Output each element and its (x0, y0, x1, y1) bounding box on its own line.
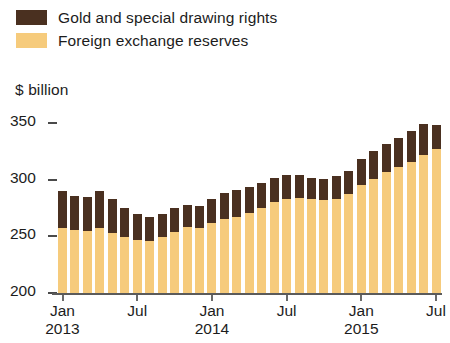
bar-segment-gold (307, 178, 316, 199)
bar-segment-gold (432, 125, 441, 149)
x-tick-year: 2015 (331, 320, 391, 338)
bar (195, 206, 204, 294)
bar-segment-fx (95, 228, 104, 294)
bar-segment-gold (133, 214, 142, 240)
bar (419, 124, 428, 294)
bar-segment-fx (170, 232, 179, 294)
bar-segment-gold (394, 138, 403, 167)
legend-item-fx: Foreign exchange reserves (16, 29, 277, 52)
bar (183, 205, 192, 294)
bar-segment-gold (232, 190, 241, 217)
bar-segment-gold (83, 197, 92, 231)
bar-segment-fx (295, 198, 304, 294)
bar-segment-gold (183, 205, 192, 228)
bar-segment-gold (282, 175, 291, 199)
bar-segment-gold (158, 214, 167, 238)
bar-segment-fx (332, 199, 341, 294)
bar (282, 175, 291, 294)
bar (382, 144, 391, 294)
y-tick-mark (48, 179, 57, 181)
bar-segment-fx (344, 194, 353, 294)
bar (70, 196, 79, 294)
bar-segment-gold (295, 175, 304, 198)
bar-segment-fx (407, 162, 416, 294)
y-axis-unit-label: $ billion (15, 81, 68, 99)
bar (357, 159, 366, 294)
chart-legend: Gold and special drawing rights Foreign … (16, 6, 277, 52)
bar (319, 179, 328, 294)
bar-segment-fx (282, 199, 291, 294)
bar (432, 125, 441, 294)
bar (394, 138, 403, 294)
bar-segment-fx (120, 237, 129, 294)
bar-segment-fx (108, 233, 117, 294)
y-tick-label: 300 (10, 169, 44, 187)
x-tick-mark (211, 295, 213, 301)
bar-segment-gold (369, 151, 378, 178)
bar-segment-gold (357, 159, 366, 185)
bar (257, 183, 266, 294)
bar-segment-fx (382, 172, 391, 294)
bar-segment-fx (357, 185, 366, 294)
plot-area (57, 112, 442, 294)
x-tick-Jan-2014: Jan2014 (182, 302, 242, 338)
bar-segment-gold (145, 217, 154, 241)
legend-swatch-fx (16, 33, 47, 48)
x-tick-month: Jul (257, 302, 317, 320)
y-tick-label: 200 (10, 282, 44, 300)
bar (158, 214, 167, 294)
bar-segment-gold (120, 208, 129, 237)
bar (133, 214, 142, 294)
bar-segment-fx (307, 199, 316, 294)
x-tick-mark (136, 295, 138, 301)
bar-segment-gold (58, 191, 67, 228)
x-tick-month: Jan (331, 302, 391, 320)
x-tick-Jul: Jul (406, 302, 450, 320)
bar (270, 177, 279, 294)
y-tick-300: 300 (10, 169, 57, 187)
x-tick-month: Jan (182, 302, 242, 320)
bar-segment-fx (369, 179, 378, 294)
x-tick-month: Jan (33, 302, 93, 320)
bar-segment-fx (394, 167, 403, 294)
bar-segment-fx (70, 230, 79, 294)
bar-segment-fx (419, 155, 428, 294)
bar-segment-fx (195, 228, 204, 294)
bar-segment-gold (270, 178, 279, 203)
bar-segment-gold (108, 199, 117, 233)
x-tick-year: 2014 (182, 320, 242, 338)
bar-segment-fx (58, 228, 67, 294)
x-tick-mark (286, 295, 288, 301)
axis-baseline (52, 293, 442, 295)
bar (295, 175, 304, 294)
bar (120, 208, 129, 294)
bar-segment-gold (195, 206, 204, 229)
bar (170, 208, 179, 294)
bar-segment-gold (332, 176, 341, 199)
bar-segment-fx (83, 231, 92, 294)
y-tick-250: 250 (10, 225, 57, 243)
bar-segment-fx (319, 200, 328, 294)
bar (145, 217, 154, 294)
y-tick-mark (48, 122, 57, 124)
bar (232, 190, 241, 294)
bar-segment-fx (245, 213, 254, 294)
bar-segment-gold (220, 193, 229, 219)
x-tick-year: 2013 (33, 320, 93, 338)
bar-segment-gold (419, 124, 428, 155)
bar-segment-fx (133, 240, 142, 294)
bar-segment-fx (145, 241, 154, 294)
bar-segment-fx (257, 208, 266, 294)
x-tick-mark (360, 295, 362, 301)
bar (207, 199, 216, 294)
bar (245, 187, 254, 294)
bar-segment-fx (158, 237, 167, 294)
bar (83, 197, 92, 294)
legend-item-gold: Gold and special drawing rights (16, 6, 277, 29)
bar-segment-gold (319, 179, 328, 200)
y-tick-label: 350 (10, 112, 44, 130)
bar-segment-fx (220, 219, 229, 294)
y-tick-label: 250 (10, 225, 44, 243)
bar-segment-gold (382, 144, 391, 172)
